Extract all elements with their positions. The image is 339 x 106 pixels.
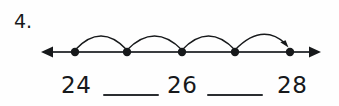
answer-blank-1[interactable] <box>103 94 159 96</box>
answer-number-24: 24 <box>61 72 91 98</box>
left-arrowhead-icon <box>41 47 53 58</box>
jump-arc <box>75 36 127 50</box>
jump-arrowhead-icon <box>280 40 288 47</box>
answer-sequence-row: 24 26 28 <box>0 72 339 104</box>
number-line-point <box>286 48 294 56</box>
jump-arc <box>127 36 182 50</box>
jump-arc <box>182 36 235 50</box>
answer-blank-2[interactable] <box>207 94 263 96</box>
answer-number-26: 26 <box>167 72 197 98</box>
worksheet-problem: 4. 24 26 28 <box>0 0 339 106</box>
jump-arc-with-arrow <box>235 34 286 50</box>
answer-number-28: 28 <box>277 72 307 98</box>
right-arrowhead-icon <box>309 47 321 58</box>
